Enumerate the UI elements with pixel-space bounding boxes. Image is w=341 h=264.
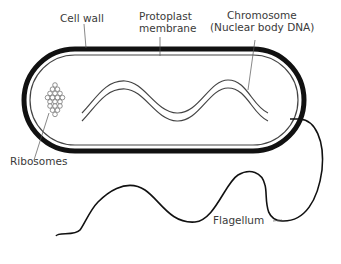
chromosome-label-line1: Chromosome bbox=[227, 9, 297, 21]
ribosome bbox=[55, 95, 60, 100]
ribosome bbox=[60, 95, 65, 100]
protoplast-membrane bbox=[30, 55, 298, 145]
ribosome bbox=[45, 95, 50, 100]
chromosome-strand-1 bbox=[82, 80, 268, 113]
bacterial-cell-diagram: Cell wall Protoplast membrane Chromosome… bbox=[0, 0, 341, 264]
chromosome-label-line2: (Nuclear body DNA) bbox=[210, 21, 314, 33]
protoplast-label-line2: membrane bbox=[139, 22, 196, 34]
ribosome bbox=[50, 108, 55, 113]
cell-wall bbox=[24, 49, 304, 151]
chromosome-strand-2 bbox=[82, 88, 268, 121]
ribosome bbox=[55, 87, 60, 92]
ribosomes-label: Ribosomes bbox=[10, 155, 67, 167]
ribosome bbox=[48, 104, 53, 109]
ribosome bbox=[50, 87, 55, 92]
ribosome bbox=[50, 95, 55, 100]
ribosome bbox=[53, 91, 58, 96]
flagellum bbox=[56, 119, 323, 236]
cell-wall-leader bbox=[84, 24, 86, 48]
ribosome bbox=[53, 112, 58, 117]
ribosome-cluster bbox=[45, 83, 65, 117]
ribosome bbox=[58, 91, 63, 96]
flagellum-label: Flagellum bbox=[213, 214, 264, 226]
ribosome bbox=[58, 104, 63, 109]
protoplast-label-line1: Protoplast bbox=[139, 10, 192, 22]
ribosome bbox=[53, 104, 58, 109]
cell-wall-label: Cell wall bbox=[60, 12, 104, 24]
ribosome bbox=[55, 108, 60, 113]
ribosome bbox=[53, 83, 58, 88]
ribosome bbox=[48, 91, 53, 96]
